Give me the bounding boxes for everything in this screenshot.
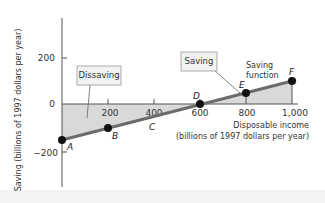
point-f xyxy=(288,77,296,85)
x-tick-label-200: 200 xyxy=(101,108,118,118)
dissaving-callout-label: Dissaving xyxy=(78,70,119,80)
point-label-d: D xyxy=(193,91,200,101)
y-tick-label-0: 0 xyxy=(49,99,55,109)
point-label-b: B xyxy=(112,131,118,141)
point-label-e: E xyxy=(239,80,245,90)
point-d xyxy=(196,100,204,108)
curve-label-line2: function xyxy=(246,71,279,80)
y-axis-title: Saving (billions of 1997 dollars per yea… xyxy=(14,29,23,192)
point-e xyxy=(242,89,250,97)
x-tick-label-1000: 1,000 xyxy=(282,108,308,118)
point-a xyxy=(58,136,66,144)
point-label-f: F xyxy=(289,67,295,77)
x-axis-title-line1: Disposable income xyxy=(233,121,309,130)
curve-label-line1: Saving xyxy=(246,61,273,70)
point-label-a: A xyxy=(66,142,73,152)
point-b xyxy=(104,124,112,132)
x-tick-label-600: 600 xyxy=(191,108,208,118)
x-tick-label-800: 800 xyxy=(238,108,255,118)
point-label-c: C xyxy=(149,122,156,132)
y-tick-label-neg200: −200 xyxy=(33,148,58,158)
saving-function-chart: 200 0 −200 200 400 600 800 1,000 Disposa… xyxy=(0,0,325,203)
saving-callout-label: Saving xyxy=(185,56,214,66)
y-tick-label-200: 200 xyxy=(38,53,55,63)
x-axis-title-line2: (billions of 1997 dollars per year) xyxy=(176,132,309,141)
